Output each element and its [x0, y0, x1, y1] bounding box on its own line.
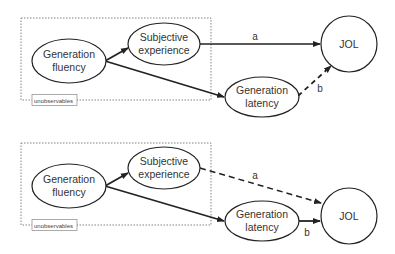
svg-text:Generation: Generation — [43, 173, 95, 185]
svg-text:JOL: JOL — [339, 38, 358, 50]
edge-label-a: a — [252, 31, 258, 42]
edge-b-latency-to-jol — [298, 66, 331, 96]
svg-text:Subjective: Subjective — [140, 155, 189, 167]
svg-text:fluency: fluency — [52, 186, 86, 198]
node-generation-fluency: Generation fluency — [32, 39, 106, 83]
panel-top: unobservables a b Generation fluency Sub… — [21, 16, 377, 117]
svg-text:experience: experience — [138, 44, 190, 56]
unobservables-label: unobservables — [34, 98, 73, 104]
svg-text:Subjective: Subjective — [140, 31, 189, 43]
svg-text:latency: latency — [245, 221, 279, 233]
svg-text:fluency: fluency — [52, 61, 86, 73]
svg-text:JOL: JOL — [339, 210, 358, 222]
node-subjective-experience: Subjective experience — [128, 147, 200, 189]
edge-a-experience-to-jol — [200, 168, 321, 203]
node-jol: JOL — [321, 188, 377, 244]
panel-bottom: unobservables a b Generation fluency Sub… — [21, 143, 377, 244]
node-generation-fluency: Generation fluency — [32, 164, 106, 208]
svg-text:Generation: Generation — [43, 48, 95, 60]
edge-fluency-to-latency — [105, 186, 224, 221]
diagram-canvas: unobservables a b Generation fluency Sub… — [0, 0, 395, 254]
edge-fluency-to-experience — [105, 173, 128, 186]
svg-text:experience: experience — [138, 168, 190, 180]
edge-label-b: b — [317, 83, 323, 94]
edge-fluency-to-latency — [105, 61, 224, 97]
node-subjective-experience: Subjective experience — [128, 23, 200, 65]
edge-label-a: a — [252, 170, 258, 181]
node-jol: JOL — [321, 16, 377, 72]
svg-text:latency: latency — [245, 97, 279, 109]
svg-text:Generation: Generation — [236, 84, 288, 96]
node-generation-latency: Generation latency — [225, 201, 299, 241]
edge-fluency-to-experience — [105, 48, 128, 61]
edge-label-b: b — [304, 227, 310, 238]
unobservables-label: unobservables — [34, 223, 73, 229]
svg-text:Generation: Generation — [236, 208, 288, 220]
node-generation-latency: Generation latency — [225, 77, 299, 117]
